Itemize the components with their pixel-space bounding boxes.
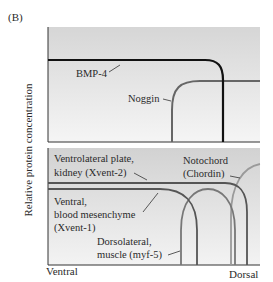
noggin-label: Noggin — [128, 93, 160, 104]
top-panel: BMP-4 Noggin — [48, 27, 260, 142]
xvent1-label-line3: (Xvent-1) — [54, 222, 96, 234]
xvent1-label-line2: blood mesenchyme — [54, 209, 136, 220]
diagram-canvas: BMP-4 Noggin Ventrolateral plate, kidney… — [0, 0, 273, 282]
top-panel-background — [48, 27, 260, 142]
bmp4-label: BMP-4 — [76, 68, 108, 79]
xvent1-label-line1: Ventral, — [54, 196, 87, 207]
chordin-label-line2: (Chordin) — [183, 168, 225, 180]
xvent2-label-line1: Ventrolateral plate, — [54, 153, 134, 164]
myf5-label-line1: Dorsolateral, — [97, 236, 152, 247]
myf5-label-line2: muscle (myf-5) — [97, 249, 163, 261]
chordin-label-line1: Notochord — [183, 155, 229, 166]
xvent2-label-line2: kidney (Xvent-2) — [54, 167, 127, 179]
bottom-panel: Ventrolateral plate, kidney (Xvent-2) Ve… — [48, 148, 260, 265]
